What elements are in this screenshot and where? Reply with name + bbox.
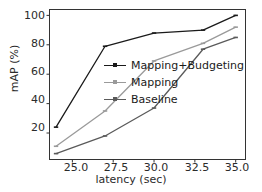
chart-legend: Mapping+Budgeting Mapping Baseline <box>104 58 244 107</box>
legend-marker-2 <box>113 97 117 101</box>
legend-marker-0 <box>113 63 117 67</box>
legend-label-baseline: Baseline <box>131 94 178 106</box>
legend-line-icon-mapping <box>104 77 126 88</box>
legend-label-mapping-budgeting: Mapping+Budgeting <box>131 60 244 72</box>
ytick-label-100: 100 <box>16 9 45 22</box>
legend-item-mapping-budgeting: Mapping+Budgeting <box>104 58 244 73</box>
legend-item-baseline: Baseline <box>104 92 244 107</box>
chart-figure: 100 80 60 40 20 25.0 27.5 30.0 32.5 35.0… <box>0 0 262 192</box>
legend-item-mapping: Mapping <box>104 75 244 90</box>
ytick-label-20: 20 <box>16 121 45 134</box>
x-axis-label: latency (sec) <box>0 173 262 186</box>
legend-label-mapping: Mapping <box>131 77 178 89</box>
legend-marker-1 <box>113 80 117 84</box>
y-axis-label: mAP (%) <box>8 29 21 109</box>
legend-line-icon-baseline <box>104 94 126 105</box>
legend-line-icon-mapping-budgeting <box>104 60 126 71</box>
